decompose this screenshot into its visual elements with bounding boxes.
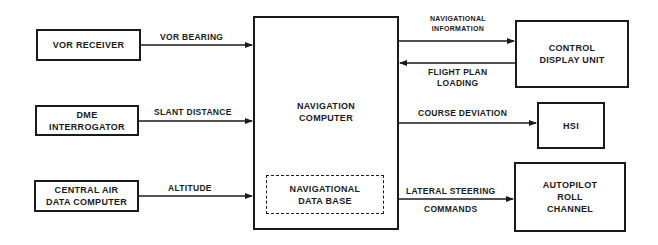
hsi-label: HSI [563,120,579,132]
altitude-label: ALTITUDE [168,183,212,194]
flight-plan-loading-label: FLIGHT PLAN LOADING [428,67,488,89]
central-air-data-computer-block: CENTRAL AIR DATA COMPUTER [34,180,139,212]
control-display-unit-label: CONTROL DISPLAY UNIT [539,42,604,66]
dme-interrogator-label: DME INTERROGATOR [49,109,125,133]
control-display-unit-block: CONTROL DISPLAY UNIT [515,20,629,88]
navigational-data-base-block: NAVIGATIONAL DATA BASE [266,175,384,214]
course-deviation-label: COURSE DEVIATION [418,108,507,119]
vor-bearing-label: VOR BEARING [160,32,223,43]
commands-label: COMMANDS [424,204,477,215]
autopilot-roll-channel-block: AUTOPILOT ROLL CHANNEL [514,162,626,232]
navigation-computer-label: NAVIGATION COMPUTER [297,100,355,124]
navigational-data-base-label: NAVIGATIONAL DATA BASE [290,183,361,207]
autopilot-roll-channel-label: AUTOPILOT ROLL CHANNEL [543,179,598,215]
vor-receiver-label: VOR RECEIVER [53,39,125,51]
vor-receiver-block: VOR RECEIVER [36,29,141,61]
slant-distance-label: SLANT DISTANCE [154,107,232,118]
dme-interrogator-block: DME INTERROGATOR [35,105,139,136]
hsi-block: HSI [537,102,605,149]
navigational-information-label: NAVIGATIONAL INFORMATION [430,14,486,34]
cadc-label: CENTRAL AIR DATA COMPUTER [46,184,127,208]
lateral-steering-label: LATERAL STEERING [406,186,496,197]
